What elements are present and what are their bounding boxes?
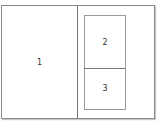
panel-1: 1 — [2, 6, 77, 118]
panel-3-label: 3 — [102, 84, 107, 93]
panel-2: 2 — [85, 16, 125, 68]
panel-2-label: 2 — [102, 38, 107, 47]
panel-3: 3 — [85, 69, 125, 108]
panel-1-label: 1 — [37, 58, 42, 67]
vertical-divider — [77, 5, 78, 119]
